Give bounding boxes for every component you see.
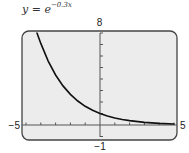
x-min-label: −5 <box>9 120 21 131</box>
y-max-label: 8 <box>97 17 103 28</box>
x-max-label: 5 <box>180 120 186 131</box>
y-min-label: −1 <box>94 141 106 152</box>
graph-window: 8 −1 −5 5 <box>0 0 189 153</box>
